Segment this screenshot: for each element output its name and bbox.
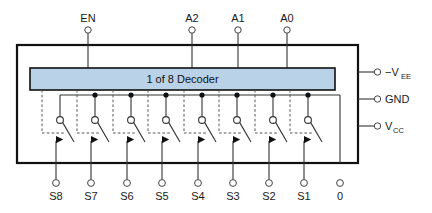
output-label: S8 xyxy=(49,190,62,202)
output-terminal-s8[interactable]: S8 xyxy=(49,180,62,202)
switch-blade[interactable] xyxy=(98,122,109,142)
bottom-terminal-layer: S8S7S6S5S4S3S2S10 xyxy=(49,180,343,202)
output-label: S6 xyxy=(120,190,133,202)
switch-pivot[interactable] xyxy=(234,117,241,124)
power-pin-gnd[interactable]: GND xyxy=(358,93,410,105)
switch-s6[interactable] xyxy=(113,90,145,180)
power-pin-vcc[interactable]: V CC xyxy=(358,120,404,135)
common-terminal-label: 0 xyxy=(337,190,343,202)
switch-pivot[interactable] xyxy=(270,117,277,124)
power-label-vee-sub: EE xyxy=(401,72,411,81)
power-label-vcc: V xyxy=(385,120,393,132)
switch-pivot[interactable] xyxy=(128,117,135,124)
input-pin-addr1[interactable]: A1 xyxy=(231,12,244,68)
switch-s1[interactable] xyxy=(290,90,322,180)
switch-s3[interactable] xyxy=(219,90,251,180)
switch-pivot[interactable] xyxy=(163,117,170,124)
input-label-enable: EN xyxy=(80,12,95,24)
contact-arrowhead xyxy=(304,136,311,143)
switch-s7[interactable] xyxy=(77,90,109,180)
terminal-circle[interactable] xyxy=(53,180,60,187)
switch-layer xyxy=(42,90,322,180)
terminal-circle[interactable] xyxy=(159,180,166,187)
terminal-circle[interactable] xyxy=(88,180,95,187)
contact-arrowhead xyxy=(162,136,169,143)
switch-blade[interactable] xyxy=(276,122,287,142)
contact-arrowhead xyxy=(269,136,276,143)
input-label-addr2: A2 xyxy=(185,12,198,24)
terminal-circle-addr1[interactable] xyxy=(235,27,241,33)
input-pin-addr2[interactable]: A2 xyxy=(185,12,198,68)
input-label-addr1: A1 xyxy=(231,12,244,24)
output-terminal-s7[interactable]: S7 xyxy=(84,180,97,202)
decoder-switch-diagram: EN A2 A1 A0 1 of 8 Decoder xyxy=(0,0,432,213)
switch-pivot[interactable] xyxy=(57,117,64,124)
decoder-block-label: 1 of 8 Decoder xyxy=(146,73,218,85)
terminal-circle-common[interactable] xyxy=(337,180,344,187)
terminal-circle-addr2[interactable] xyxy=(189,27,195,33)
switch-blade[interactable] xyxy=(63,122,74,142)
output-terminal-s1[interactable]: S1 xyxy=(297,180,310,202)
terminal-circle-enable[interactable] xyxy=(85,27,91,33)
output-label: S7 xyxy=(84,190,97,202)
input-label-addr0: A0 xyxy=(280,12,293,24)
switch-blade[interactable] xyxy=(311,122,322,142)
input-pin-addr0[interactable]: A0 xyxy=(280,12,293,68)
input-pin-enable[interactable]: EN xyxy=(80,12,95,68)
terminal-circle[interactable] xyxy=(266,180,273,187)
right-pin-group: −V EE GND V CC xyxy=(358,66,411,135)
terminal-circle-vcc[interactable] xyxy=(374,123,380,129)
junction-dot xyxy=(163,92,168,97)
switch-pivot[interactable] xyxy=(305,117,312,124)
switch-blade[interactable] xyxy=(205,122,216,142)
switch-s8[interactable] xyxy=(42,90,74,180)
switch-s2[interactable] xyxy=(255,90,287,180)
switch-blade[interactable] xyxy=(134,122,145,142)
switch-s4[interactable] xyxy=(184,90,216,180)
contact-arrowhead xyxy=(233,136,240,143)
junction-dot xyxy=(128,92,133,97)
common-terminal[interactable]: 0 xyxy=(337,180,344,202)
contact-arrowhead xyxy=(127,136,134,143)
junction-dot xyxy=(199,92,204,97)
junction-dot xyxy=(305,92,310,97)
terminal-circle-addr0[interactable] xyxy=(284,27,290,33)
power-label-vcc-sub: CC xyxy=(393,126,404,135)
terminal-circle[interactable] xyxy=(301,180,308,187)
switch-s5[interactable] xyxy=(148,90,180,180)
switch-pivot[interactable] xyxy=(92,117,99,124)
junction-dot xyxy=(234,92,239,97)
junction-dot xyxy=(92,92,97,97)
terminal-circle[interactable] xyxy=(124,180,131,187)
output-terminal-s5[interactable]: S5 xyxy=(155,180,168,202)
power-label-gnd: GND xyxy=(385,93,410,105)
terminal-circle[interactable] xyxy=(195,180,202,187)
output-label: S4 xyxy=(191,190,204,202)
terminal-circle-vee[interactable] xyxy=(374,69,380,75)
output-terminal-s2[interactable]: S2 xyxy=(262,180,275,202)
chip-outline xyxy=(17,45,358,163)
power-label-vee: −V xyxy=(385,66,399,78)
junction-dot xyxy=(270,92,275,97)
output-label: S2 xyxy=(262,190,275,202)
terminal-circle[interactable] xyxy=(230,180,237,187)
output-label: S3 xyxy=(226,190,239,202)
switch-pivot[interactable] xyxy=(199,117,206,124)
contact-arrowhead xyxy=(91,136,98,143)
terminal-circle-gnd[interactable] xyxy=(374,96,380,102)
contact-arrowhead xyxy=(56,136,63,143)
output-label: S1 xyxy=(297,190,310,202)
switch-blade[interactable] xyxy=(240,122,251,142)
top-input-group: EN A2 A1 A0 xyxy=(80,12,293,68)
output-terminal-s4[interactable]: S4 xyxy=(191,180,204,202)
output-terminal-s3[interactable]: S3 xyxy=(226,180,239,202)
power-pin-vee[interactable]: −V EE xyxy=(358,66,411,81)
output-label: S5 xyxy=(155,190,168,202)
contact-arrowhead xyxy=(198,136,205,143)
output-terminal-s6[interactable]: S6 xyxy=(120,180,133,202)
switch-blade[interactable] xyxy=(169,122,180,142)
